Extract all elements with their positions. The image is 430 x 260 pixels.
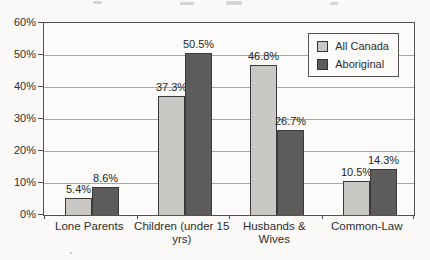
x-tick-mark: [137, 215, 138, 219]
legend-swatch-all-canada: [317, 41, 328, 52]
legend: All Canada Aboriginal: [308, 33, 399, 77]
bar-value-label: 26.7%: [264, 115, 318, 127]
bar-aboriginal: [185, 53, 212, 215]
scan-speck: [70, 252, 72, 254]
legend-label: Aboriginal: [335, 58, 384, 70]
y-tick-label: 50%: [2, 48, 36, 60]
y-tick-label: 0%: [2, 208, 36, 220]
bar-value-label: 8.6%: [79, 172, 133, 184]
y-tick-label: 40%: [2, 80, 36, 92]
bar-all-canada: [65, 198, 92, 215]
y-tick-label: 10%: [2, 176, 36, 188]
y-tick-label: 30%: [2, 112, 36, 124]
gridline: [44, 151, 414, 152]
legend-item-aboriginal: Aboriginal: [317, 58, 389, 70]
x-tick-mark: [413, 215, 414, 219]
bar-all-canada: [343, 181, 370, 215]
category-label: Lone Parents: [41, 220, 137, 233]
bar-aboriginal: [370, 169, 397, 215]
gridline: [44, 87, 414, 88]
bar-value-label: 46.8%: [237, 50, 291, 62]
category-label: Children (under 15 yrs): [134, 220, 230, 246]
x-tick-mark: [44, 215, 45, 219]
x-tick-mark: [322, 215, 323, 219]
bar-all-canada: [158, 96, 185, 215]
legend-item-all-canada: All Canada: [317, 40, 389, 52]
bar-value-label: 14.3%: [357, 154, 411, 166]
y-tick-label: 60%: [2, 16, 36, 28]
legend-label: All Canada: [335, 40, 389, 52]
category-label: Common-Law: [319, 220, 415, 233]
bar-aboriginal: [92, 187, 119, 215]
scanned-bar-chart: 0%10%20%30%40%50%60% 5.4%8.6%37.3%50.5%4…: [0, 0, 430, 260]
cropped-text-remnant: [226, 1, 242, 5]
cropped-text-remnant: [180, 2, 194, 5]
x-tick-mark: [229, 215, 230, 219]
bar-aboriginal: [277, 130, 304, 215]
category-label: Husbands & Wives: [226, 220, 322, 246]
plot-area: 5.4%8.6%37.3%50.5%46.8%26.7%10.5%14.3% A…: [43, 22, 415, 216]
bar-all-canada: [250, 65, 277, 215]
bar-value-label: 50.5%: [172, 38, 226, 50]
y-tick-label: 20%: [2, 144, 36, 156]
cropped-text-remnant: [330, 2, 338, 5]
gridline: [44, 119, 414, 120]
cropped-text-remnant: [93, 1, 102, 4]
legend-swatch-aboriginal: [317, 59, 328, 70]
